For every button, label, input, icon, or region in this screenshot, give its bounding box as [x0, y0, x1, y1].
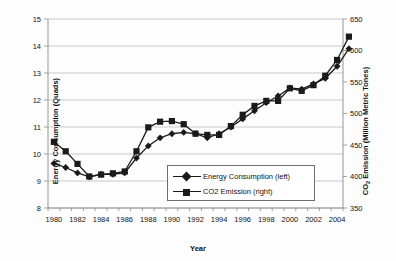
data-point-square [275, 98, 281, 104]
svg-text:400: 400 [350, 172, 363, 181]
svg-text:9: 9 [37, 177, 41, 186]
svg-text:14: 14 [33, 42, 41, 51]
svg-text:2004: 2004 [329, 215, 346, 224]
data-point-diamond [62, 164, 69, 171]
svg-text:1996: 1996 [234, 215, 251, 224]
data-series-layer [51, 34, 353, 181]
data-point-square [181, 121, 187, 127]
data-point-square [133, 148, 139, 154]
data-point-square [240, 112, 246, 118]
svg-text:350: 350 [350, 204, 363, 213]
svg-text:2002: 2002 [305, 215, 322, 224]
legend-item-co2-emission: CO2 Emission (right) [173, 184, 309, 199]
svg-text:450: 450 [350, 141, 363, 150]
square-marker-icon [173, 186, 201, 198]
data-point-square [216, 132, 222, 138]
data-point-square [334, 57, 340, 63]
svg-text:1980: 1980 [46, 215, 63, 224]
data-point-square [145, 124, 151, 130]
svg-text:550: 550 [350, 78, 363, 87]
data-point-diamond [169, 130, 176, 137]
chart-legend: Energy Consumption (left) CO2 Emission (… [167, 165, 315, 201]
svg-text:15: 15 [33, 15, 41, 24]
data-point-square [51, 139, 57, 145]
data-point-square [86, 173, 92, 179]
x-axis-ticks: 1980198219841986198819901992199419961998… [46, 208, 346, 224]
data-point-square [192, 131, 198, 137]
y-axis-right-ticks: 350400450500550600650 [343, 15, 363, 213]
svg-text:500: 500 [350, 109, 363, 118]
svg-text:1994: 1994 [211, 215, 228, 224]
data-point-diamond [51, 160, 58, 167]
series-line-energy-consumption [54, 49, 349, 177]
data-point-square [110, 170, 116, 176]
data-point-diamond [180, 129, 187, 136]
data-point-square [98, 172, 104, 178]
data-point-square [204, 132, 210, 138]
svg-text:1984: 1984 [93, 215, 110, 224]
data-point-square [310, 82, 316, 88]
data-point-square [157, 119, 163, 125]
svg-text:2000: 2000 [282, 215, 299, 224]
data-point-square [299, 88, 305, 94]
svg-text:8: 8 [37, 204, 41, 213]
diamond-marker-icon [173, 171, 201, 183]
svg-text:1992: 1992 [187, 215, 204, 224]
svg-text:12: 12 [33, 96, 41, 105]
svg-text:600: 600 [350, 46, 363, 55]
svg-text:1998: 1998 [258, 215, 275, 224]
data-point-diamond [74, 170, 81, 177]
svg-text:11: 11 [33, 123, 41, 132]
data-point-square [263, 98, 269, 104]
legend-label-co2-emission: CO2 Emission (right) [201, 187, 273, 196]
series-line-co2-emission [54, 37, 349, 177]
legend-label-energy-consumption: Energy Consumption (left) [201, 172, 290, 181]
data-point-square [287, 85, 293, 91]
data-point-square [122, 168, 128, 174]
data-point-square [63, 148, 69, 154]
svg-text:10: 10 [33, 150, 41, 159]
svg-text:1982: 1982 [69, 215, 86, 224]
data-point-square [346, 34, 352, 40]
svg-text:1986: 1986 [116, 215, 133, 224]
legend-item-energy-consumption: Energy Consumption (left) [173, 169, 309, 184]
chart-container: Energy Consumption (Quads) CO2 Emission … [0, 0, 396, 261]
svg-text:1990: 1990 [164, 215, 181, 224]
svg-text:13: 13 [33, 69, 41, 78]
svg-text:650: 650 [350, 15, 363, 24]
y-axis-left-ticks: 89101112131415 [33, 15, 48, 213]
data-point-square [322, 73, 328, 79]
svg-text:1988: 1988 [140, 215, 157, 224]
data-point-square [228, 123, 234, 129]
plot-area: 89101112131415 350400450500550600650 198… [0, 0, 396, 261]
data-point-square [169, 118, 175, 124]
data-point-square [251, 103, 257, 109]
data-point-square [74, 161, 80, 167]
